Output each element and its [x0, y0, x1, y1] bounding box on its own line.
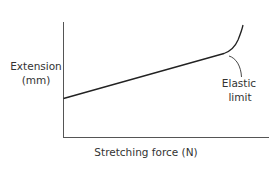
elastic-limit-label-line2: limit	[228, 91, 251, 103]
elastic-limit-label-line1: Elastic	[222, 77, 256, 89]
extension-curve	[64, 25, 244, 99]
elastic-limit-leader	[229, 56, 242, 77]
x-axis-label: Stretching force (N)	[94, 146, 197, 158]
y-axis-label-line1: Extension	[10, 60, 62, 72]
y-axis-label-line2: (mm)	[22, 74, 51, 86]
extension-force-diagram: Extension (mm) Stretching force (N) Elas…	[0, 0, 278, 172]
